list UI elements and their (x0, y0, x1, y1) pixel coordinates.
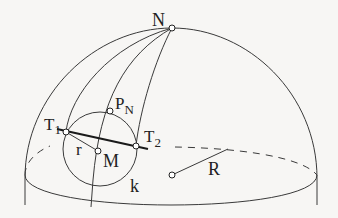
point-t1 (63, 129, 69, 135)
equator-back-right (175, 147, 317, 175)
point-t2 (133, 143, 139, 149)
label-m: M (103, 151, 119, 171)
point-p-n (107, 108, 113, 114)
hemisphere-diagram: N PN T1 T2 r M k R (0, 0, 338, 218)
label-n: N (152, 10, 165, 30)
label-R: R (208, 159, 220, 179)
point-m (95, 148, 101, 154)
label-p-n: PN (115, 94, 134, 117)
point-n (169, 25, 175, 31)
equator-back (25, 146, 50, 175)
label-r: r (76, 140, 82, 159)
hemisphere-outline (25, 28, 317, 205)
label-k: k (130, 176, 139, 196)
label-t1: T1 (44, 115, 61, 137)
label-t2: T2 (144, 127, 161, 150)
point-center (169, 172, 175, 178)
equator-front (25, 175, 317, 205)
